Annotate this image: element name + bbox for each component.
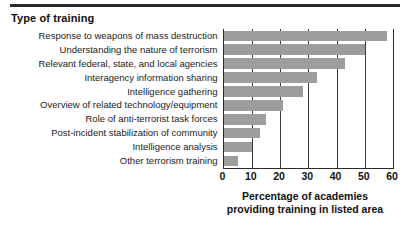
bar: [224, 100, 283, 111]
x-axis-title: Percentage of academies providing traini…: [205, 190, 405, 216]
tick-label-0: 0: [211, 170, 235, 182]
category-label: Intelligence analysis: [4, 140, 220, 154]
tick-label-50: 50: [352, 170, 376, 182]
top-rule-divider: [10, 4, 400, 7]
category-label: Response to weapons of mass destruction: [4, 29, 220, 43]
x-axis-title-line-2: providing training in listed area: [205, 203, 405, 216]
x-axis-title-line-1: Percentage of academies: [205, 190, 405, 203]
bar: [224, 58, 345, 69]
bar: [224, 142, 252, 153]
bar-row: [224, 29, 394, 43]
bar: [224, 72, 317, 83]
chart-title: Type of training: [11, 12, 94, 24]
category-axis-labels: Response to weapons of mass destructionU…: [4, 29, 220, 168]
x-axis-tick-labels: 0102030405060: [0, 170, 409, 184]
tick-label-10: 10: [239, 170, 263, 182]
category-label: Intelligence gathering: [4, 85, 220, 99]
bar: [224, 44, 365, 55]
bar: [224, 31, 388, 42]
plot-area: [223, 29, 395, 169]
category-label: Role of anti-terrorist task forces: [4, 112, 220, 126]
tick-label-20: 20: [267, 170, 291, 182]
bar-row: [224, 57, 394, 71]
tick-label-30: 30: [295, 170, 319, 182]
gridline-50: [365, 29, 366, 168]
category-label: Understanding the nature of terrorism: [4, 43, 220, 57]
category-label: Other terrorism training: [4, 154, 220, 168]
bar: [224, 156, 238, 167]
bar: [224, 128, 261, 139]
bar: [224, 114, 266, 125]
category-label: Overview of related technology/equipment: [4, 98, 220, 112]
bar-row: [224, 71, 394, 85]
bar-row: [224, 43, 394, 57]
category-label: Relevant federal, state, and local agenc…: [4, 57, 220, 71]
category-label: Post-incident stabilization of community: [4, 126, 220, 140]
chart-figure: Type of training Response to weapons of …: [0, 0, 409, 225]
category-label: Interagency information sharing: [4, 71, 220, 85]
bar: [224, 86, 303, 97]
tick-label-60: 60: [380, 170, 404, 182]
tick-label-40: 40: [324, 170, 348, 182]
